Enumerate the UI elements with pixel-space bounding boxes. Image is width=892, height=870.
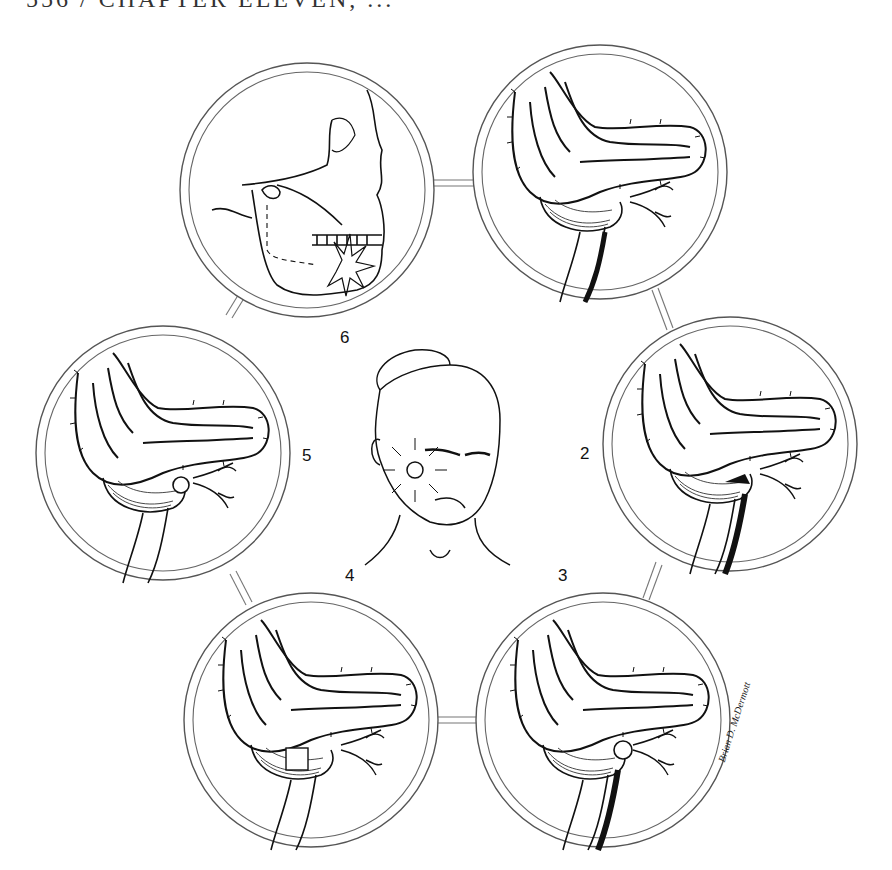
panel-3-brainstem — [476, 593, 730, 850]
label-6: 6 — [340, 328, 349, 348]
panel-6-skull — [180, 63, 434, 317]
center-face-illustration — [365, 350, 510, 565]
panel-5-brainstem — [36, 326, 290, 583]
label-3: 3 — [558, 566, 567, 586]
panel-4-brainstem — [184, 593, 438, 850]
label-5: 5 — [302, 446, 311, 466]
panel-2-brainstem — [603, 317, 857, 574]
label-4: 4 — [345, 566, 354, 586]
label-2: 2 — [580, 444, 589, 464]
figure-diagram — [0, 0, 892, 870]
panel-1-brainstem — [473, 45, 727, 302]
